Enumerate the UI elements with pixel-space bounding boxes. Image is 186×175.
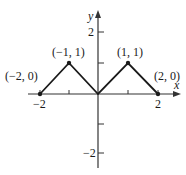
x-tick-label-neg2: −2	[33, 97, 46, 111]
function-graph	[40, 63, 158, 94]
point-neg2-0	[38, 92, 42, 96]
y-axis-arrow-icon	[95, 10, 101, 18]
x-tick-label-pos2: 2	[155, 97, 161, 111]
annotation-neg2-0: (−2, 0)	[5, 69, 38, 83]
y-tick-label-pos2: 2	[88, 25, 94, 39]
y-tick-label-neg2: −2	[83, 146, 96, 160]
annotation-1-1: (1, 1)	[117, 45, 143, 59]
axes	[28, 10, 181, 168]
y-axis-label: y	[87, 9, 94, 23]
point-neg1-1	[67, 61, 71, 65]
point-2-0	[156, 92, 160, 96]
annotation-2-0: (2, 0)	[154, 69, 180, 83]
graph-canvas: y x −2 2 2 −2 (−2, 0) (−1, 1) (1, 1) (2,…	[0, 0, 186, 175]
annotation-neg1-1: (−1, 1)	[52, 45, 85, 59]
point-1-1	[126, 61, 130, 65]
